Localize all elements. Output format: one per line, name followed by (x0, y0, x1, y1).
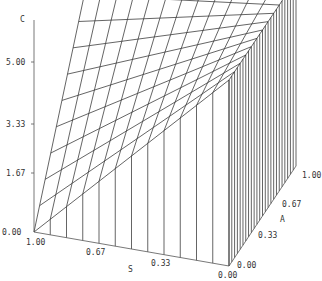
c-tick-3: 3.33 (6, 120, 25, 129)
mesh-line (122, 39, 138, 41)
mesh-line (263, 4, 279, 5)
mesh-line (106, 20, 112, 43)
mesh-line (106, 41, 122, 43)
mesh-line (144, 18, 160, 19)
mesh-line (121, 93, 137, 100)
mesh-line (225, 15, 241, 16)
mesh-line (89, 90, 95, 113)
mesh-line (176, 48, 182, 64)
mesh-line (154, 69, 160, 86)
mesh-line (89, 107, 105, 114)
mesh-line (89, 43, 105, 45)
mesh-line (73, 21, 79, 47)
mesh-line (197, 93, 213, 106)
mesh-line (165, 48, 181, 52)
mesh-line (144, 0, 150, 19)
mesh-line (94, 85, 110, 90)
mesh-line (133, 56, 149, 60)
mesh-line (138, 87, 154, 94)
mesh-line (73, 46, 89, 48)
mesh-line (192, 16, 208, 17)
mesh-line (95, 0, 101, 21)
mesh-line (115, 156, 131, 169)
a-axis-label: A (280, 215, 285, 224)
mesh-line (263, 0, 269, 4)
mesh-line (171, 17, 177, 34)
s-tick-067: 0.67 (86, 248, 105, 257)
mesh-line (111, 19, 127, 20)
c-tick-0: 0.00 (2, 228, 21, 237)
mesh-line (68, 70, 84, 74)
mesh-line (246, 24, 252, 34)
mesh-line (89, 21, 95, 46)
mesh-line (68, 48, 74, 74)
mesh-line (105, 100, 121, 107)
mesh-line (121, 80, 127, 100)
mesh-line (127, 19, 143, 20)
mesh-line (218, 72, 234, 83)
mesh-line (208, 41, 214, 54)
mesh-line (51, 145, 67, 153)
mesh-line (230, 34, 246, 38)
mesh-line (100, 107, 106, 129)
mesh-line (153, 112, 159, 128)
mesh-line (236, 15, 242, 26)
chart-area: C 5.00 3.33 1.67 0.00 1.00 0.67 0.33 0.0… (0, 0, 322, 281)
wireframe-surface (34, 0, 296, 266)
mesh-line (214, 37, 230, 41)
s-axis-label: S (128, 265, 133, 274)
mesh-line (154, 35, 170, 37)
mesh-line (100, 63, 116, 67)
mesh-line (133, 39, 139, 59)
mesh-line (247, 3, 263, 4)
mesh-line (209, 15, 225, 16)
mesh-line (176, 59, 192, 64)
mesh-line (198, 41, 214, 45)
mesh-line (45, 170, 61, 180)
mesh-line (181, 33, 187, 49)
mesh-line (225, 3, 231, 16)
mesh-line (56, 120, 72, 127)
a-tick-033: 0.33 (258, 231, 277, 240)
mesh-line (170, 64, 176, 80)
mesh-line (116, 41, 122, 63)
surface-plot: C 5.00 3.33 1.67 0.00 1.00 0.67 0.33 0.0… (0, 0, 322, 281)
mesh-line (83, 113, 89, 136)
mesh-line (115, 150, 121, 169)
mesh-line (219, 26, 235, 28)
mesh-line (116, 100, 122, 120)
mesh-line (209, 2, 215, 16)
mesh-line (236, 24, 252, 26)
mesh-line (79, 0, 85, 21)
mesh-line (160, 0, 166, 18)
mesh-line (138, 19, 144, 39)
mesh-line (121, 139, 137, 150)
mesh-line (143, 69, 159, 74)
mesh-line (61, 145, 67, 170)
a-tick-067: 0.67 (282, 200, 301, 209)
mesh-line (149, 37, 155, 56)
mesh-line (198, 1, 214, 2)
mesh-line (73, 95, 79, 120)
mesh-line (127, 75, 143, 80)
mesh-line (197, 71, 213, 79)
mesh-line (95, 20, 111, 21)
mesh-line (127, 0, 133, 19)
mesh-line (62, 95, 78, 100)
mesh-line (105, 85, 111, 107)
mesh-line (231, 0, 237, 3)
mesh-line (171, 33, 187, 35)
c-tick-1: 1.67 (6, 169, 25, 178)
mesh-line (45, 153, 51, 179)
mesh-line (62, 74, 68, 100)
mesh-line (241, 14, 257, 15)
mesh-line (127, 59, 133, 79)
s-tick-033: 0.33 (151, 259, 170, 268)
mesh-line (257, 13, 273, 14)
mesh-line (176, 17, 192, 18)
mesh-line (192, 1, 198, 17)
c-tick-5: 5.00 (6, 58, 25, 67)
mesh-line (159, 52, 165, 69)
a-tick-1: 1.00 (302, 171, 321, 180)
mesh-line (40, 179, 46, 205)
